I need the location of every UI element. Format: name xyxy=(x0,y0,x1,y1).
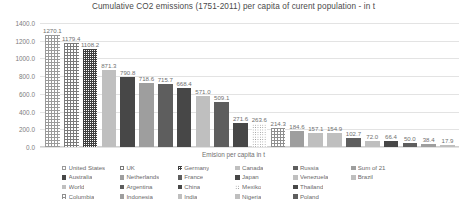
bar-slot: 157.1 xyxy=(307,23,324,147)
y-axis-tick-label: 1200.0 xyxy=(15,37,35,44)
bar[interactable]: 157.1 xyxy=(308,133,323,147)
legend-item[interactable]: Sum of 21 xyxy=(351,163,407,173)
bar[interactable]: 263.6 xyxy=(252,124,267,147)
bar-slot: 154.9 xyxy=(326,23,343,147)
legend-label: Thailand xyxy=(300,184,323,190)
bar-slot: 271.6 xyxy=(232,23,249,147)
legend-item[interactable]: Canada xyxy=(235,163,291,173)
legend-item[interactable]: World xyxy=(62,182,118,192)
legend-label: Indonesia xyxy=(126,194,152,200)
bar-value-label: 263.6 xyxy=(252,116,267,123)
bar-value-label: 1108.2 xyxy=(81,41,99,48)
bar-value-label: 214.3 xyxy=(271,120,286,127)
legend-label: India xyxy=(184,194,197,200)
bar[interactable]: 184.6 xyxy=(290,131,305,147)
bar[interactable]: 102.7 xyxy=(346,138,361,147)
legend-label: Venezuela xyxy=(300,174,328,180)
legend-label: Netherlands xyxy=(126,174,159,180)
legend-label: Canada xyxy=(242,165,263,171)
bar-value-label: 1179.4 xyxy=(62,35,80,42)
legend-swatch xyxy=(120,194,124,198)
legend-item[interactable]: Argentina xyxy=(120,182,176,192)
legend-swatch xyxy=(62,166,66,170)
bar[interactable]: 50.0 xyxy=(403,143,418,147)
bar[interactable]: 66.4 xyxy=(384,141,399,147)
legend-item[interactable]: Columbia xyxy=(62,192,118,202)
legend-swatch xyxy=(235,185,239,189)
chart-container: Cumulative CO2 emissions (1751-2011) per… xyxy=(0,0,467,204)
legend-item[interactable]: Australia xyxy=(62,173,118,183)
chart-legend: United StatesAustraliaWorldColumbiaUKNet… xyxy=(62,163,407,201)
legend-label: Mexiko xyxy=(242,184,261,190)
legend-swatch xyxy=(235,194,239,198)
legend-item[interactable]: Netherlands xyxy=(120,173,176,183)
y-axis-tick-label: 1000.0 xyxy=(15,55,35,62)
legend-item[interactable]: Thailand xyxy=(293,182,349,192)
legend-label: Argentina xyxy=(126,184,152,190)
y-axis-tick-label: 0.0 xyxy=(26,144,35,151)
legend-item[interactable]: Japan xyxy=(235,173,291,183)
legend-item[interactable]: France xyxy=(178,173,234,183)
y-axis-tick-label: 200.0 xyxy=(19,126,35,133)
legend-swatch xyxy=(351,175,355,179)
legend-swatch xyxy=(62,194,66,198)
legend-item[interactable]: Indonesia xyxy=(120,192,176,202)
legend-swatch xyxy=(293,166,297,170)
legend-item[interactable]: Mexiko xyxy=(235,182,291,192)
bar-value-label: 509.1 xyxy=(214,94,229,101)
legend-swatch xyxy=(351,166,355,170)
legend-item[interactable]: Germany xyxy=(178,163,234,173)
bar[interactable]: 17.9 xyxy=(440,145,455,147)
legend-item[interactable]: UK xyxy=(120,163,176,173)
bar-value-label: 157.1 xyxy=(308,125,323,132)
bar[interactable]: 72.0 xyxy=(365,141,380,147)
bar-slot: 102.7 xyxy=(345,23,362,147)
bar-value-label: 715.7 xyxy=(158,76,173,83)
bar[interactable]: 790.8 xyxy=(120,77,135,147)
bar-value-label: 571.0 xyxy=(195,88,210,95)
bar-slot: 184.6 xyxy=(288,23,305,147)
legend-label: Australia xyxy=(69,174,93,180)
bar[interactable]: 1179.4 xyxy=(64,43,79,147)
legend-item[interactable]: Poland xyxy=(293,192,349,202)
bar[interactable]: 509.1 xyxy=(214,102,229,147)
legend-item[interactable]: Nigeria xyxy=(235,192,291,202)
bar-value-label: 17.9 xyxy=(442,137,454,144)
legend-swatch xyxy=(293,175,297,179)
bar-slot: 668.4 xyxy=(175,23,192,147)
x-axis-label: Emision per capita in t xyxy=(0,151,467,158)
bar[interactable]: 214.3 xyxy=(271,128,286,147)
legend-item[interactable]: India xyxy=(178,192,234,202)
bar-slot: 214.3 xyxy=(269,23,286,147)
bar[interactable]: 718.6 xyxy=(139,83,154,147)
bar[interactable]: 38.4 xyxy=(421,144,436,147)
legend-item[interactable]: Venezuela xyxy=(293,173,349,183)
bar[interactable]: 715.7 xyxy=(158,84,173,147)
legend-label: United States xyxy=(69,165,106,171)
bar[interactable]: 271.6 xyxy=(233,123,248,147)
legend-swatch xyxy=(120,175,124,179)
legend-item[interactable]: Russia xyxy=(293,163,349,173)
legend-label: Nigeria xyxy=(242,194,261,200)
bar-value-label: 718.6 xyxy=(139,75,154,82)
bar[interactable]: 154.9 xyxy=(327,133,342,147)
y-axis-tick-label: 600.0 xyxy=(19,90,35,97)
legend-swatch xyxy=(120,185,124,189)
legend-swatch xyxy=(62,185,66,189)
y-axis: 1400.01200.01000.0800.0600.0400.0200.00.… xyxy=(0,23,38,147)
bar[interactable]: 871.3 xyxy=(102,70,117,147)
bar[interactable]: 668.4 xyxy=(177,88,192,147)
legend-swatch xyxy=(235,175,239,179)
legend-item[interactable]: China xyxy=(178,182,234,192)
legend-swatch xyxy=(178,166,182,170)
bar-value-label: 38.4 xyxy=(423,136,435,143)
legend-label: Japan xyxy=(242,174,259,180)
bar-value-label: 154.9 xyxy=(327,125,342,132)
legend-label: Sum of 21 xyxy=(358,165,386,171)
bar[interactable]: 1270.1 xyxy=(45,35,60,147)
bar[interactable]: 571.0 xyxy=(196,96,211,147)
legend-item[interactable]: United States xyxy=(62,163,118,173)
bar-slot: 50.0 xyxy=(401,23,418,147)
bar[interactable]: 1108.2 xyxy=(83,49,98,147)
legend-item[interactable]: Brazil xyxy=(351,173,407,183)
